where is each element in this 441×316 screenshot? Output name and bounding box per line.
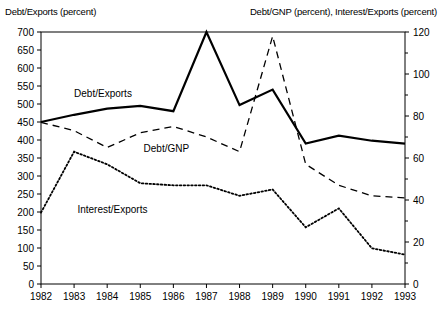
right-tick-label: 100 bbox=[413, 69, 430, 80]
right-tick-label: 0 bbox=[413, 279, 419, 290]
left-tick-label: 400 bbox=[17, 135, 34, 146]
x-tick-label: 1991 bbox=[328, 291, 351, 302]
x-tick-label: 1984 bbox=[96, 291, 119, 302]
left-tick-label: 450 bbox=[17, 117, 34, 128]
series-lines bbox=[41, 32, 405, 255]
right-tick-label: 40 bbox=[413, 195, 425, 206]
left-tick-label: 500 bbox=[17, 99, 34, 110]
x-tick-label: 1983 bbox=[63, 291, 86, 302]
left-tick-label: 350 bbox=[17, 153, 34, 164]
left-tick-label: 250 bbox=[17, 189, 34, 200]
right-axis-ticks: 020406080100120 bbox=[405, 27, 430, 290]
x-tick-label: 1985 bbox=[129, 291, 152, 302]
left-tick-label: 300 bbox=[17, 171, 34, 182]
series-label-debt-exports: Debt/Exports bbox=[74, 88, 132, 99]
series-label-debt-gnp: Debt/GNP bbox=[144, 143, 190, 154]
left-tick-label: 700 bbox=[17, 27, 34, 38]
left-tick-label: 50 bbox=[23, 261, 35, 272]
series-label-interest-exports: Interest/Exports bbox=[77, 204, 147, 215]
x-tick-label: 1986 bbox=[162, 291, 185, 302]
left-tick-label: 650 bbox=[17, 45, 34, 56]
x-tick-label: 1993 bbox=[394, 291, 417, 302]
left-tick-label: 200 bbox=[17, 207, 34, 218]
x-axis-ticks: 1982198319841985198619871988198919901991… bbox=[30, 284, 417, 302]
left-tick-label: 100 bbox=[17, 243, 34, 254]
left-tick-label: 150 bbox=[17, 225, 34, 236]
chart-plot-area: 0501001502002503003504004505005506006507… bbox=[0, 0, 441, 316]
x-tick-label: 1987 bbox=[195, 291, 218, 302]
right-tick-label: 80 bbox=[413, 111, 425, 122]
left-tick-label: 600 bbox=[17, 63, 34, 74]
left-axis-ticks: 0501001502002503003504004505005506006507… bbox=[17, 27, 41, 290]
x-tick-label: 1992 bbox=[361, 291, 384, 302]
left-tick-label: 550 bbox=[17, 81, 34, 92]
x-tick-label: 1990 bbox=[295, 291, 318, 302]
right-tick-label: 120 bbox=[413, 27, 430, 38]
x-tick-label: 1989 bbox=[262, 291, 285, 302]
x-tick-label: 1982 bbox=[30, 291, 53, 302]
left-tick-label: 0 bbox=[28, 279, 34, 290]
series-line-debt-gnp bbox=[41, 36, 405, 198]
right-tick-label: 60 bbox=[413, 153, 425, 164]
chart-container: Debt/Exports (percent) Debt/GNP (percent… bbox=[0, 0, 441, 316]
right-tick-label: 20 bbox=[413, 237, 425, 248]
x-tick-label: 1988 bbox=[228, 291, 251, 302]
